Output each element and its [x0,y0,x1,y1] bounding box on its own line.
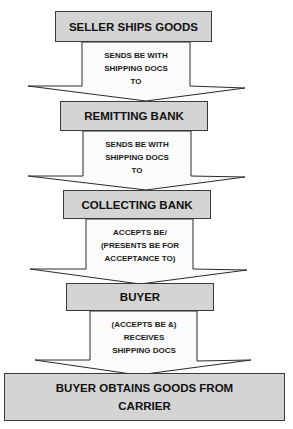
edge-label-buyer-to-obtains: (ACCEPTS BE &) RECEIVES SHIPPING DOCS [90,318,198,357]
edge-label-line: TO [83,164,191,177]
node-buyer-obtains-goods: BUYER OBTAINS GOODS FROM CARRIER [4,373,285,421]
node-label-line-2: CARRIER [118,397,170,415]
edge-label-line: RECEIVES [90,331,198,344]
edge-label-line: SHIPPING DOCS [82,62,190,75]
node-label: SELLER SHIPS GOODS [69,21,198,33]
node-label: BUYER [120,291,160,303]
edge-label-line: SENDS BE WITH [83,138,191,151]
node-buyer: BUYER [66,283,214,311]
edge-label-line: ACCEPTANCE TO) [86,252,194,265]
node-label-line-1: BUYER OBTAINS GOODS FROM [56,379,233,397]
edge-label-line: SHIPPING DOCS [90,344,198,357]
node-collecting-bank: COLLECTING BANK [63,190,211,219]
edge-label-line: (ACCEPTS BE &) [90,318,198,331]
edge-label-collecting-to-buyer: ACCEPTS BE/ (PRESENTS BE FOR ACCEPTANCE … [86,226,194,265]
edge-label-line: TO [82,75,190,88]
node-remitting-bank: REMITTING BANK [60,101,208,131]
edge-label-seller-to-remitting: SENDS BE WITH SHIPPING DOCS TO [82,49,190,88]
edge-label-line: SENDS BE WITH [82,49,190,62]
edge-label-line: SHIPPING DOCS [83,151,191,164]
node-label: COLLECTING BANK [81,199,192,211]
edge-label-line: (PRESENTS BE FOR [86,239,194,252]
node-seller-ships-goods: SELLER SHIPS GOODS [55,11,212,42]
edge-label-line: ACCEPTS BE/ [86,226,194,239]
node-label: REMITTING BANK [84,110,184,122]
edge-label-remitting-to-collecting: SENDS BE WITH SHIPPING DOCS TO [83,138,191,177]
